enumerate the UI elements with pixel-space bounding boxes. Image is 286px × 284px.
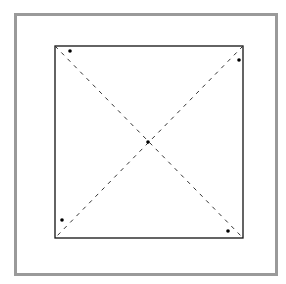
square-diagram [0, 0, 286, 284]
point-bottom-left [60, 218, 64, 222]
point-bottom-right [226, 229, 230, 233]
point-top-left [68, 49, 72, 53]
point-top-right [237, 58, 241, 62]
point-center [146, 140, 150, 144]
